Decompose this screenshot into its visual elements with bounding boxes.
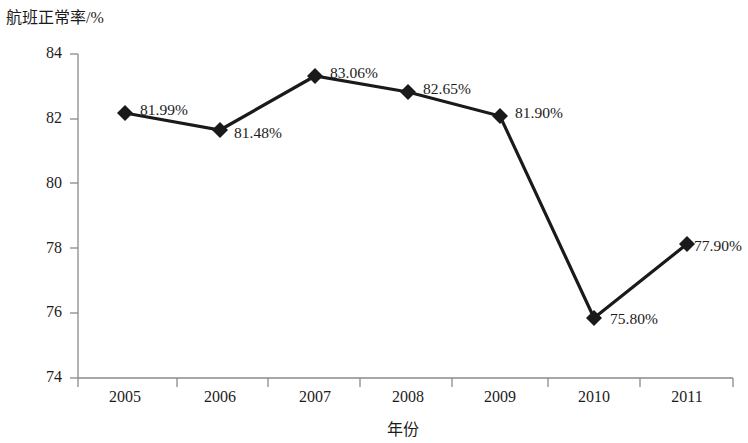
data-label-2006: 81.48% <box>234 124 282 142</box>
data-marker-2009 <box>492 108 508 124</box>
x-axis-title-text: 年份 <box>387 416 419 440</box>
data-label-2008: 82.65% <box>423 80 471 98</box>
x-tick-label-2008: 2008 <box>368 388 448 406</box>
flight-punctuality-line-chart: 航班正常率/% 84 82 80 78 76 74 <box>0 0 748 443</box>
data-label-2009: 81.90% <box>515 104 563 122</box>
data-marker-2007 <box>307 68 323 84</box>
x-tick-label-2005: 2005 <box>85 388 165 406</box>
x-tick-label-2011: 2011 <box>647 388 727 406</box>
data-marker-2006 <box>212 122 228 138</box>
data-label-2010: 75.80% <box>610 310 658 328</box>
data-label-2011: 77.90% <box>694 237 742 255</box>
data-marker-2005 <box>117 105 133 121</box>
data-marker-2008 <box>400 84 416 100</box>
x-axis-title: 年份 <box>0 416 748 440</box>
data-line-series-0 <box>125 76 687 318</box>
data-label-2007: 83.06% <box>330 64 378 82</box>
data-markers <box>117 68 695 326</box>
data-label-2005: 81.99% <box>140 101 188 119</box>
x-tick-label-2010: 2010 <box>554 388 634 406</box>
x-tick-label-2006: 2006 <box>180 388 260 406</box>
x-tick-label-2009: 2009 <box>460 388 540 406</box>
x-tick-label-2007: 2007 <box>275 388 355 406</box>
